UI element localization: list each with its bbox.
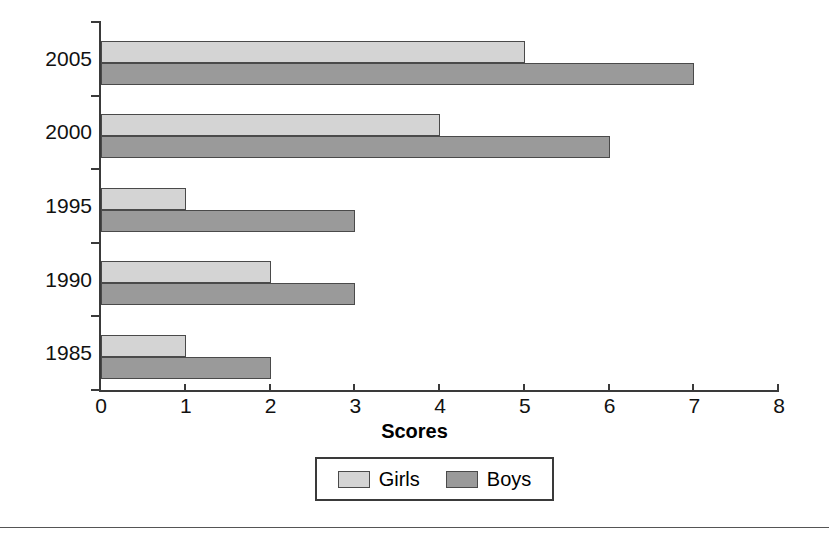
x-tick-label-1: 1 (166, 393, 206, 419)
y-tick-label-1990: 1990 (10, 268, 92, 292)
bar-girls-2000 (101, 114, 440, 136)
x-tick-8 (777, 384, 779, 392)
bar-boys-1995 (101, 210, 355, 232)
y-tick-label-1985: 1985 (10, 341, 92, 365)
bar-girls-1985 (101, 335, 186, 357)
x-tick-6 (608, 384, 610, 392)
y-tick-label-2005: 2005 (10, 47, 92, 71)
legend-swatch-boys-icon (446, 471, 478, 488)
bar-girls-1990 (101, 261, 271, 283)
bottom-divider (0, 527, 829, 528)
legend-label-boys: Boys (487, 469, 531, 489)
x-tick-5 (523, 384, 525, 392)
x-tick-7 (692, 384, 694, 392)
bar-boys-1990 (101, 283, 355, 305)
x-tick-label-3: 3 (335, 393, 375, 419)
legend-swatch-girls-icon (338, 471, 370, 488)
y-tick-5 (91, 21, 100, 23)
legend-entry-boys[interactable]: Boys (446, 469, 531, 489)
y-tick-1 (91, 315, 100, 317)
x-tick-label-6: 6 (590, 393, 630, 419)
x-tick-3 (353, 384, 355, 392)
x-tick-2 (269, 384, 271, 392)
y-tick-3 (91, 168, 100, 170)
x-tick-label-0: 0 (81, 393, 121, 419)
x-tick-label-2: 2 (251, 393, 291, 419)
legend-entry-girls[interactable]: Girls (338, 469, 420, 489)
x-tick-label-4: 4 (420, 393, 460, 419)
x-tick-label-5: 5 (505, 393, 545, 419)
x-tick-label-7: 7 (674, 393, 714, 419)
x-tick-4 (438, 384, 440, 392)
bar-girls-1995 (101, 188, 186, 210)
bar-boys-1985 (101, 357, 271, 379)
x-tick-1 (184, 384, 186, 392)
x-axis-title: Scores (0, 420, 829, 443)
bar-girls-2005 (101, 41, 525, 63)
y-tick-2 (91, 242, 100, 244)
y-tick-label-1995: 1995 (10, 194, 92, 218)
y-tick-4 (91, 95, 100, 97)
y-tick-label-2000: 2000 (10, 120, 92, 144)
x-tick-0 (99, 384, 101, 392)
bar-boys-2000 (101, 136, 610, 158)
x-tick-label-8: 8 (759, 393, 799, 419)
chart-page: 19851990199520002005 012345678 Scores Gi… (0, 0, 829, 538)
bar-boys-2005 (101, 63, 694, 85)
legend-label-girls: Girls (379, 469, 420, 489)
chart-legend: GirlsBoys (315, 457, 554, 501)
